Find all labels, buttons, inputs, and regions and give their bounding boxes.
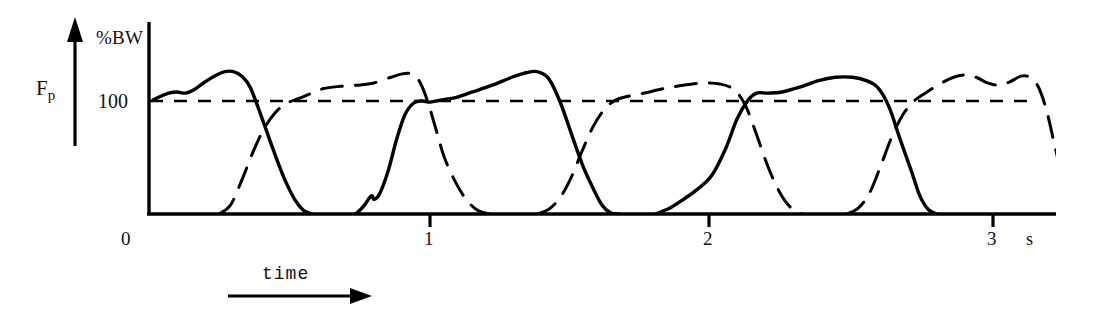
x-tick-label-3: 3: [987, 228, 997, 250]
force-trace-right-foot-vertical-force: [153, 71, 312, 214]
x-axis-unit-label: s: [1026, 229, 1033, 250]
y-axis-quantity-symbol: F: [36, 76, 48, 100]
y-tick-label-100: 100: [98, 90, 128, 113]
x-tick-label-2: 2: [703, 228, 713, 250]
y-axis-quantity-label: Fp: [36, 76, 55, 104]
force-trace-right-foot-vertical-force: [655, 77, 936, 214]
time-arrow: [228, 288, 372, 304]
force-trace-right-foot-vertical-force: [356, 71, 619, 214]
y-axis-quantity-subscript: p: [48, 87, 56, 103]
x-axis-ticks: [430, 214, 993, 227]
force-trace-left-foot-vertical-force: [219, 73, 489, 214]
y-quantity-arrow: [67, 17, 83, 146]
y-axis-unit-label: %BW: [96, 27, 143, 49]
x-tick-label-1: 1: [424, 228, 434, 250]
force-trace-layer: [153, 71, 1086, 214]
chart-svg: [0, 0, 1098, 319]
gait-force-chart: %BW 100 Fp 0 1 2 3 s time: [0, 0, 1098, 319]
x-axis-label: time: [262, 264, 309, 284]
x-tick-label-0: 0: [121, 228, 131, 250]
